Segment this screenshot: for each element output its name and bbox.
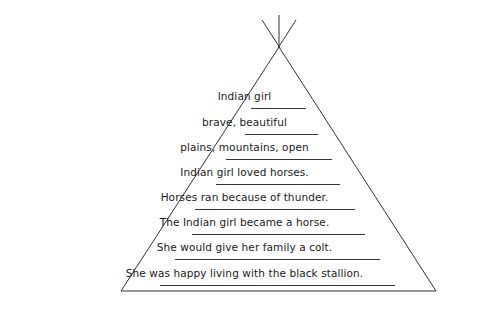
line-name: Indian girl bbox=[0, 90, 489, 102]
line-event-3: The Indian girl became a horse. bbox=[0, 216, 489, 228]
underline-3 bbox=[226, 159, 332, 160]
line-adjectives: brave, beautiful bbox=[0, 116, 489, 128]
underline-7 bbox=[175, 259, 380, 260]
line-event-2: Horses ran because of thunder. bbox=[0, 191, 489, 203]
line-ending: She was happy living with the black stal… bbox=[0, 267, 489, 279]
underline-4 bbox=[216, 184, 340, 185]
line-event-4: She would give her family a colt. bbox=[0, 241, 489, 253]
underline-8 bbox=[160, 285, 395, 286]
pole-cross-right bbox=[278, 20, 296, 48]
line-event-1: Indian girl loved horses. bbox=[0, 166, 489, 178]
underline-5 bbox=[195, 209, 355, 210]
underline-1 bbox=[251, 108, 306, 109]
underline-2 bbox=[245, 134, 318, 135]
underline-6 bbox=[192, 234, 365, 235]
line-setting: plains, mountains, open bbox=[0, 141, 489, 153]
pole-cross-left bbox=[262, 20, 280, 48]
